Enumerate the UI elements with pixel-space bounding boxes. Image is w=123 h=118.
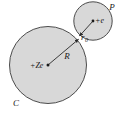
large-circle-center-dot xyxy=(47,64,50,67)
physics-diagram-svg: +Ze +e R r 0 C P xyxy=(0,0,123,118)
nucleus-charge-label: +Ze xyxy=(30,61,44,70)
small-circle-center-dot xyxy=(92,20,95,23)
radius-label-r0-subscript: 0 xyxy=(85,37,88,43)
radius-label-R: R xyxy=(63,51,70,61)
particle-charge-label: +e xyxy=(95,16,104,25)
body-label-P: P xyxy=(108,2,115,12)
body-label-C: C xyxy=(13,98,20,108)
physics-figure: +Ze +e R r 0 C P xyxy=(0,0,123,118)
